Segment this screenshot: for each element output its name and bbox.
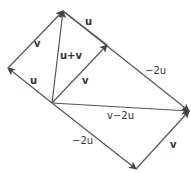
label-v-left: v [34, 38, 41, 49]
vector-v-bottom [136, 111, 189, 169]
vector-diagram: u v u+v v u −2u v−2u −2u v [0, 0, 191, 173]
label-u-top: u [85, 16, 92, 27]
label-v-bottom: v [170, 139, 177, 150]
label-u-plus-v: u+v [60, 50, 82, 61]
label-v-origin: v [82, 75, 89, 86]
label-neg2u-top: −2u [145, 65, 166, 76]
label-u-origin: u [30, 75, 37, 86]
label-v-minus-2u: v−2u [107, 110, 134, 121]
vector-neg2u-top [63, 11, 189, 111]
label-neg2u-bottom: −2u [72, 135, 93, 146]
